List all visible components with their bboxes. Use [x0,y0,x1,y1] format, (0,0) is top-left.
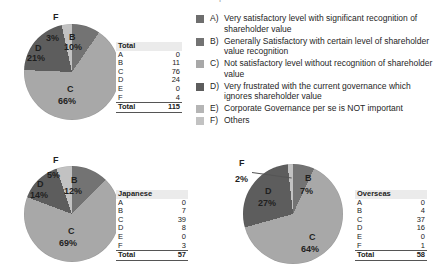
table-row: D 16 [355,224,427,233]
total-label: Total [116,103,154,113]
pie-slice-label-b-letter: B [69,32,76,42]
pie-slice-label-d-letter: D [265,186,272,196]
table-row: D 24 [116,76,182,85]
table-total-row: Total 57 [116,251,188,261]
legend-item-a: A) Very satisfactory level with signific… [196,13,434,34]
data-table-overseas: Overseas A 0 B 4 C 37 D 16 E 0 [355,190,427,261]
pie-slice-label-b-pct: 12% [64,186,82,196]
table-row: C 39 [116,216,188,225]
row-key: B [355,207,409,216]
pie-slice-label-b-pct: 7% [300,186,313,196]
legend-text-a: Very satisfactory level with significant… [224,13,434,34]
legend-key-f: F) [210,115,224,126]
row-key: E [355,233,409,242]
table-row: D 8 [116,224,188,233]
table-row: E 0 [355,233,427,242]
legend-swatch-icon-c [196,60,204,68]
legend-item-d: D) Very frustrated with the current gove… [196,81,434,102]
row-key: A [355,199,409,208]
data-table-total: Total A 0 B 11 C 76 D 24 E 0 [116,42,182,113]
total-label: Total [116,251,170,261]
row-key: C [355,216,409,225]
legend-item-b: B) Generally Satisfactory with certain l… [196,36,434,57]
pie-slice-label-d-pct: 14% [30,190,48,200]
pie-slice-label-f-pct: 5% [47,170,60,180]
table-row: E 0 [116,85,182,94]
table-row: A 0 [355,199,427,208]
legend-swatch-icon-d [196,83,204,91]
legend-text-e: Corporate Governance per se is NOT impor… [224,103,403,114]
pie-slice-label-d-pct: 27% [258,198,276,208]
pie-slice-label-d-letter: D [35,43,42,53]
pie-chart-japanese: F 5% B 12% D 14% C 69% [24,166,120,262]
pie-slice-label-f-letter: F [53,12,59,22]
table-header-row: Total [116,42,182,51]
legend-text-f: Others [224,115,250,126]
row-key: A [116,199,170,208]
legend: A) Very satisfactory level with signific… [196,13,434,127]
legend-item-f: F) Others [196,115,434,126]
legend-text-d: Very frustrated with the current governa… [224,81,434,102]
pie-slice-label-b-letter: B [71,175,78,185]
table-header-row: Overseas [355,190,427,199]
pie-slice-label-f-letter: F [239,158,245,168]
clipped-text-top: F [219,0,224,4]
legend-key-e: E) [210,103,224,114]
legend-item-e: E) Corporate Governance per se is NOT im… [196,103,434,114]
legend-text-b: Generally Satisfactory with certain leve… [224,36,434,57]
pie-slice-label-c-pct: 69% [59,238,77,248]
pie-slice-label-b-letter: B [305,173,312,183]
row-key: D [355,224,409,233]
pie-slice-label-c-letter: C [68,226,75,236]
row-key: D [116,224,170,233]
table-header-label: Japanese [116,190,170,199]
pie-graphic-overseas [243,164,343,264]
legend-key-d: D) [210,81,224,92]
pie-chart-total: F 3% B 10% D 21% C 66% [24,24,120,120]
pie-slice-label-b-pct: 10% [64,42,82,52]
legend-swatch-icon-f [196,117,204,125]
legend-key-c: C) [210,58,224,69]
table-total-row: Total 115 [116,103,182,113]
total-value: 57 [170,251,188,261]
row-key: C [116,216,170,225]
pie-slice-label-c-pct: 66% [58,96,76,106]
legend-swatch-icon-a [196,15,204,23]
table-header-row: Japanese [116,190,188,199]
table-header-label: Overseas [355,190,409,199]
legend-key-b: B) [210,36,224,47]
pie-slice-label-f-pct: 2% [235,174,248,184]
pie-slice-label-f-pct: 3% [46,33,59,43]
pie-slice-label-d-pct: 21% [27,53,45,63]
total-label: Total [355,251,409,261]
legend-item-c: C) Not satisfactory level without recogn… [196,58,434,79]
row-key: B [116,207,170,216]
row-key: E [116,233,170,242]
total-value: 115 [154,103,182,113]
slide-canvas: F F 3% B 10% D 21% C 66% Total A 0 B 11 [0,0,437,274]
pie-slice-label-d-letter: D [37,179,44,189]
pie-slice-label-c-letter: C [309,232,316,242]
table-row: A 0 [116,199,188,208]
legend-swatch-icon-b [196,38,204,46]
legend-key-a: A) [210,13,224,24]
pie-slice-label-c-pct: 64% [301,244,319,254]
total-value: 58 [409,251,427,261]
data-table-japanese: Japanese A 0 B 7 C 39 D 8 E 0 [116,190,188,261]
legend-swatch-icon-e [196,105,204,113]
legend-text-c: Not satisfactory level without recogniti… [224,58,434,79]
pie-slice-label-f-letter: F [53,155,59,165]
pie-slice-label-c-letter: C [67,84,74,94]
table-row: E 0 [116,233,188,242]
pie-chart-overseas: F 2% B 7% D 27% C 64% [243,164,343,264]
table-total-row: Total 58 [355,251,427,261]
